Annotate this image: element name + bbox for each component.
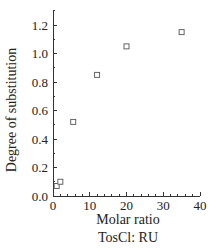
y-tick-label: 0.6 xyxy=(32,103,49,118)
y-tick-label: 1.0 xyxy=(32,46,48,61)
y-axis-title: Degree of substitution xyxy=(4,48,19,172)
data-point-marker xyxy=(124,44,129,49)
y-tick-label: 1.2 xyxy=(32,18,48,33)
y-tick-label: 0.0 xyxy=(32,189,48,204)
y-tick-label: 0.2 xyxy=(32,160,48,175)
data-points xyxy=(54,30,184,189)
x-tick-label: 30 xyxy=(157,198,170,213)
y-tick-label: 0.4 xyxy=(32,132,49,147)
data-point-marker xyxy=(179,30,184,35)
x-axis-subtitle: TosCl: RU xyxy=(98,230,158,245)
x-tick-label: 20 xyxy=(120,198,133,213)
data-point-marker xyxy=(95,72,100,77)
x-tick-label: 40 xyxy=(194,198,207,213)
data-point-marker xyxy=(58,179,63,184)
data-point-marker xyxy=(71,119,76,124)
x-tick-label: 0 xyxy=(50,198,57,213)
x-tick-label: 10 xyxy=(83,198,96,213)
x-axis-title: Molar ratio xyxy=(96,212,159,227)
y-tick-label: 0.8 xyxy=(32,75,48,90)
scatter-chart: 0.00.20.40.60.81.01.2010203040 Degree of… xyxy=(0,0,215,251)
